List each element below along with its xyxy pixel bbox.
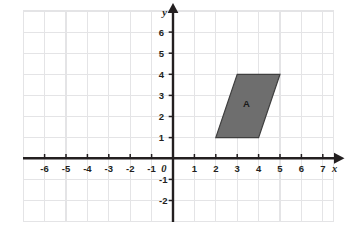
y-tick-label: 5 [159,48,165,59]
shape-label-a: A [243,98,250,109]
y-axis-label: y [160,7,167,18]
y-tick-label: 3 [159,90,164,101]
x-tick-label: -5 [62,163,71,174]
x-tick-label: 7 [320,163,325,174]
x-tick-label: -4 [83,163,92,174]
y-tick-label: 2 [159,111,164,122]
x-tick-label: 4 [256,163,262,174]
y-tick-label: 1 [159,132,165,143]
x-tick-label: 2 [213,163,218,174]
x-tick-label: 3 [235,163,240,174]
origin-label: 0 [161,163,167,174]
y-tick-label: -2 [159,195,167,206]
x-axis-label: x [331,163,337,174]
x-tick-label: -3 [105,163,113,174]
coordinate-plane-svg: A [0,0,348,234]
x-tick-label: 6 [299,163,304,174]
y-tick-label: 4 [159,69,165,80]
x-tick-label: -1 [147,163,156,174]
y-tick-label: 6 [159,27,164,38]
y-tick-label: -1 [159,174,168,185]
x-tick-label: -2 [126,163,134,174]
x-tick-label: 1 [192,163,198,174]
x-tick-label: 5 [277,163,283,174]
coordinate-plane-figure: A [0,0,348,234]
x-tick-label: -6 [40,163,48,174]
